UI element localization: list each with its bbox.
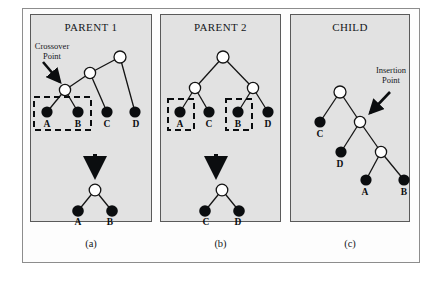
node-label-child-c: C	[313, 129, 327, 139]
panel-parent-1-title: PARENT 1	[31, 21, 151, 33]
crossover-point-line2: Point	[24, 52, 80, 62]
node-label-p2-a: A	[173, 119, 187, 129]
node-label-p2-c: C	[202, 119, 216, 129]
node-label-child-d: D	[333, 159, 347, 169]
panel-child-title: CHILD	[291, 21, 409, 33]
caption-a: (a)	[30, 238, 152, 249]
caption-b: (b)	[160, 238, 281, 249]
node-label-p2-d: D	[261, 119, 275, 129]
caption-c: (c)	[290, 238, 410, 249]
crossover-point-annotation: Crossover Point	[24, 42, 80, 61]
node-label-p1-sub-b: B	[103, 217, 117, 227]
insertion-point-annotation: Insertion Point	[365, 66, 417, 85]
panel-child: CHILD	[290, 14, 410, 222]
node-label-p1-sub-a: A	[71, 217, 85, 227]
node-label-p2-b: B	[231, 119, 245, 129]
node-label-p2-sub-d: D	[231, 217, 245, 227]
node-label-child-b: B	[397, 187, 411, 197]
node-label-child-a: A	[358, 187, 372, 197]
node-label-p1-a: A	[40, 119, 54, 129]
node-label-p2-sub-c: C	[199, 217, 213, 227]
panel-parent-2-title: PARENT 2	[161, 21, 280, 33]
node-label-p1-d: D	[129, 119, 143, 129]
node-label-p1-c: C	[100, 119, 114, 129]
node-label-p1-b: B	[71, 119, 85, 129]
figure-screenshot: PARENT 1 PARENT 2 CHILD (a) (b) (c) Cros…	[0, 0, 438, 283]
panel-parent-2: PARENT 2	[160, 14, 281, 222]
insertion-point-line2: Point	[365, 76, 417, 86]
